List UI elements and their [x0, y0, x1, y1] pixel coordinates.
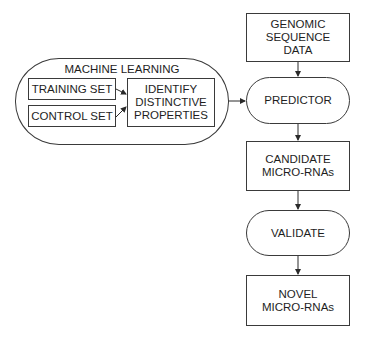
- control-set-label: CONTROL SET: [31, 110, 112, 123]
- training-set-label: TRAINING SET: [32, 83, 113, 96]
- identify-properties-label: IDENTIFY DISTINCTIVE PROPERTIES: [134, 83, 208, 122]
- machine-learning-title: MACHINE LEARNING: [16, 63, 228, 75]
- predictor-label: PREDICTOR: [264, 94, 332, 107]
- validate-label: VALIDATE: [271, 227, 325, 240]
- identify-properties-node: IDENTIFY DISTINCTIVE PROPERTIES: [127, 78, 215, 127]
- control-set-node: CONTROL SET: [28, 105, 116, 127]
- novel-micro-rnas-label: NOVEL MICRO-RNAs: [262, 288, 334, 314]
- novel-micro-rnas-node: NOVEL MICRO-RNAs: [246, 275, 350, 326]
- candidate-micro-rnas-label: CANDIDATE MICRO-RNAs: [262, 153, 334, 179]
- predictor-node: PREDICTOR: [246, 77, 350, 124]
- candidate-micro-rnas-node: CANDIDATE MICRO-RNAs: [246, 141, 350, 191]
- genomic-sequence-data-node: GENOMIC SEQUENCE DATA: [246, 13, 350, 62]
- training-set-node: TRAINING SET: [28, 78, 116, 100]
- validate-node: VALIDATE: [246, 210, 350, 256]
- genomic-sequence-data-label: GENOMIC SEQUENCE DATA: [266, 18, 331, 57]
